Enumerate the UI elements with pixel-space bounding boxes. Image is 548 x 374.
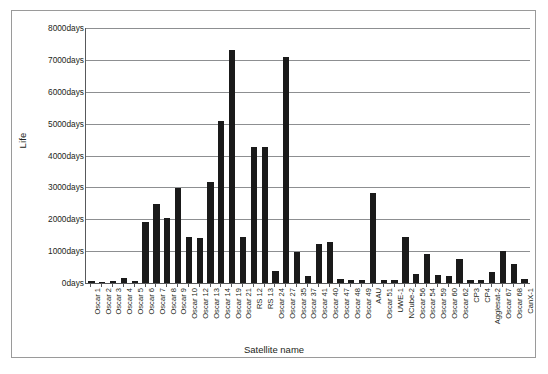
x-label-slot: Oscar 59	[432, 288, 443, 340]
x-tick-mark	[101, 283, 102, 287]
x-label-slot: Oscar 62	[453, 288, 464, 340]
x-label-slot: Oscar 14	[215, 288, 226, 340]
bar-slot	[227, 28, 238, 283]
bar	[489, 272, 495, 283]
bar-slot	[411, 28, 422, 283]
x-tick-slot	[399, 283, 410, 287]
x-label-slot: Oscar 56	[410, 288, 421, 340]
bar	[424, 254, 430, 283]
x-tick-mark	[166, 283, 167, 287]
x-tick-slot	[507, 283, 518, 287]
x-label-slot: CanX-1	[518, 288, 529, 340]
x-tick-mark	[480, 283, 481, 287]
bar	[511, 264, 517, 283]
x-tick-slot	[486, 283, 497, 287]
bar-slot	[508, 28, 519, 283]
bar-slot	[97, 28, 108, 283]
x-tick-mark	[404, 283, 405, 287]
bar	[186, 237, 192, 283]
x-tick-slot	[237, 283, 248, 287]
x-label-slot: Oscar 7	[150, 288, 161, 340]
bar-slot	[303, 28, 314, 283]
bar	[207, 182, 213, 283]
x-tick-mark	[123, 283, 124, 287]
bar	[402, 237, 408, 283]
bar-slot	[118, 28, 129, 283]
bar-slot	[400, 28, 411, 283]
x-tick-slot	[518, 283, 529, 287]
x-axis-tick-marks	[85, 283, 529, 287]
x-tick-mark	[90, 283, 91, 287]
x-tick-mark	[220, 283, 221, 287]
x-label-slot: AAU	[367, 288, 378, 340]
x-label-slot: CP3	[464, 288, 475, 340]
x-tick-slot	[334, 283, 345, 287]
x-tick-mark	[394, 283, 395, 287]
bar	[164, 218, 170, 283]
bar	[370, 193, 376, 283]
x-tick-mark	[383, 283, 384, 287]
x-label-slot: Oscar 3	[107, 288, 118, 340]
bar	[294, 252, 300, 283]
x-tick-mark	[339, 283, 340, 287]
x-tick-mark	[361, 283, 362, 287]
x-tick-slot	[269, 283, 280, 287]
plot-area	[85, 28, 530, 284]
x-tick-slot	[388, 283, 399, 287]
x-axis-tick-labels: Oscar 1Oscar 2Oscar 3Oscar 4Oscar 5Oscar…	[85, 288, 529, 340]
x-tick-mark	[350, 283, 351, 287]
x-tick-slot	[421, 283, 432, 287]
bar	[327, 242, 333, 283]
x-label-slot: Oscar 12	[193, 288, 204, 340]
x-tick-slot	[161, 283, 172, 287]
x-tick-slot	[247, 283, 258, 287]
x-label-slot: Oscar 21	[237, 288, 248, 340]
x-tick-mark	[210, 283, 211, 287]
bar-slot	[324, 28, 335, 283]
x-tick-mark	[199, 283, 200, 287]
x-tick-slot	[258, 283, 269, 287]
x-tick-slot	[475, 283, 486, 287]
y-tick-label: 8000days	[18, 24, 84, 33]
bar-slot	[519, 28, 530, 283]
x-tick-mark	[437, 283, 438, 287]
x-label-slot: Oscar 13	[204, 288, 215, 340]
x-tick-slot	[302, 283, 313, 287]
bar-slot	[238, 28, 249, 283]
y-tick-label: 6000days	[18, 87, 84, 96]
x-tick-label: CanX-1	[527, 288, 535, 314]
x-tick-mark	[307, 283, 308, 287]
x-tick-mark	[372, 283, 373, 287]
x-tick-mark	[469, 283, 470, 287]
x-label-slot: Oscar 10	[182, 288, 193, 340]
bar-slot	[129, 28, 140, 283]
chart-figure: Life 0days1000days2000days3000days4000da…	[0, 0, 548, 374]
x-tick-slot	[291, 283, 302, 287]
x-label-slot: Oscar 8	[161, 288, 172, 340]
x-tick-slot	[453, 283, 464, 287]
bar	[435, 275, 441, 283]
x-label-slot: Oscar 6	[139, 288, 150, 340]
x-tick-slot	[215, 283, 226, 287]
x-label-slot: UWE-1	[388, 288, 399, 340]
x-label-slot: Oscar 35	[291, 288, 302, 340]
x-tick-slot	[128, 283, 139, 287]
x-tick-mark	[296, 283, 297, 287]
x-label-slot: Oscar 67	[496, 288, 507, 340]
bar	[272, 271, 278, 283]
x-label-slot: Oscar 2	[96, 288, 107, 340]
x-tick-mark	[242, 283, 243, 287]
bar-slot	[173, 28, 184, 283]
y-tick-label: 3000days	[18, 183, 84, 192]
bar	[316, 244, 322, 283]
x-tick-slot	[442, 283, 453, 287]
x-tick-slot	[117, 283, 128, 287]
bar	[251, 147, 257, 283]
x-label-slot: Oscar 49	[356, 288, 367, 340]
x-tick-mark	[188, 283, 189, 287]
x-tick-slot	[345, 283, 356, 287]
x-label-slot: Oscar 9	[172, 288, 183, 340]
x-tick-mark	[318, 283, 319, 287]
y-tick-label: 1000days	[18, 247, 84, 256]
x-tick-slot	[312, 283, 323, 287]
